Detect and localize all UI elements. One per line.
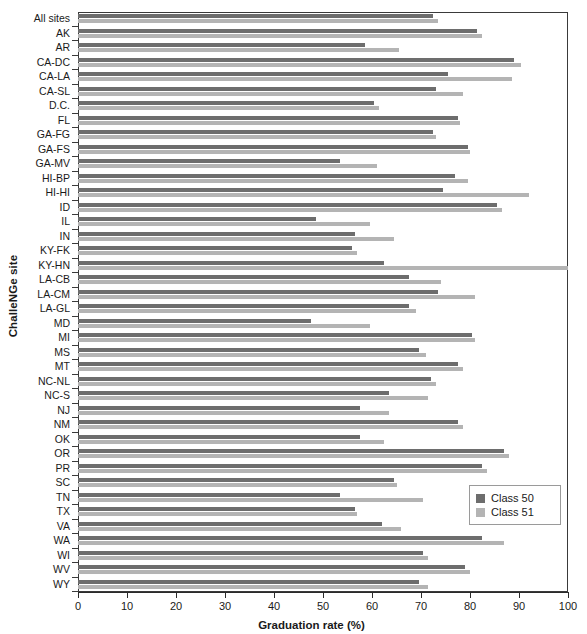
bar-group (78, 186, 568, 201)
y-tick-label: HI-HI (46, 187, 71, 198)
bar-class-50 (78, 232, 355, 236)
bar-group (78, 462, 568, 477)
bar-group (78, 273, 568, 288)
legend-label-class-51: Class 51 (491, 506, 534, 518)
bar-class-50 (78, 406, 360, 410)
x-tick-label: 60 (366, 600, 378, 612)
bar-class-50 (78, 348, 419, 352)
bar-class-51 (78, 222, 370, 226)
bar-class-51 (78, 309, 416, 313)
bar-class-51 (78, 338, 475, 342)
bar-class-51 (78, 164, 377, 168)
bar-class-50 (78, 29, 477, 33)
bar-group (78, 563, 568, 578)
bar-group (78, 244, 568, 259)
bar-class-50 (78, 246, 352, 250)
bar-class-50 (78, 261, 384, 265)
bar-class-50 (78, 435, 360, 439)
bar-class-50 (78, 159, 340, 163)
bar-group (78, 128, 568, 143)
x-tick-label: 0 (75, 600, 81, 612)
y-tick-label: CA-SL (39, 86, 70, 97)
bar-class-50 (78, 565, 465, 569)
bar-group (78, 331, 568, 346)
y-tick-label: TX (57, 506, 70, 517)
bar-group (78, 157, 568, 172)
y-tick-label: AK (56, 28, 70, 39)
bar-class-51 (78, 208, 502, 212)
y-tick-label: OR (54, 448, 70, 459)
y-tick-label: KY-HN (38, 260, 70, 271)
bar-class-50 (78, 362, 458, 366)
legend: Class 50 Class 51 (469, 485, 561, 525)
bar-class-51 (78, 266, 568, 270)
bar-class-50 (78, 217, 316, 221)
bar-class-51 (78, 527, 401, 531)
bar-class-51 (78, 34, 482, 38)
x-tick-label: 10 (121, 600, 133, 612)
legend-swatch-class-50-icon (476, 494, 485, 503)
bar-class-51 (78, 251, 357, 255)
y-tick-label: GA-FS (38, 144, 70, 155)
bar-class-50 (78, 420, 458, 424)
y-tick-label: WI (57, 550, 70, 561)
bar-class-51 (78, 367, 463, 371)
bar-group (78, 201, 568, 216)
bar-class-50 (78, 377, 431, 381)
bar-group (78, 27, 568, 42)
x-axis-title: Graduation rate (%) (0, 619, 587, 631)
x-tick-mark (470, 592, 471, 598)
bar-group (78, 302, 568, 317)
bar-class-50 (78, 174, 455, 178)
bar-class-51 (78, 498, 423, 502)
bar-class-50 (78, 14, 433, 18)
bar-class-51 (78, 280, 441, 284)
y-tick-label: MI (58, 332, 70, 343)
x-tick-label: 20 (170, 600, 182, 612)
y-tick-label: CA-DC (37, 57, 70, 68)
x-axis-title-text: Graduation rate (%) (258, 619, 365, 631)
legend-swatch-class-51-icon (476, 508, 485, 517)
x-tick-mark (568, 592, 569, 598)
bar-class-51 (78, 440, 384, 444)
bar-class-50 (78, 58, 514, 62)
y-tick-label: NC-S (44, 390, 70, 401)
y-tick-label: TN (56, 492, 70, 503)
y-tick-label: WY (53, 579, 70, 590)
bar-group (78, 215, 568, 230)
bar-class-50 (78, 43, 365, 47)
bar-group (78, 70, 568, 85)
bar-group (78, 578, 568, 593)
bar-group (78, 143, 568, 158)
bar-class-51 (78, 483, 397, 487)
bar-class-51 (78, 237, 394, 241)
bar-class-50 (78, 72, 448, 76)
y-tick-label: KY-FK (40, 245, 70, 256)
bar-class-51 (78, 469, 487, 473)
bar-class-50 (78, 464, 482, 468)
y-tick-label: NM (54, 419, 70, 430)
bar-class-51 (78, 556, 428, 560)
y-tick-label: LA-GL (40, 303, 70, 314)
bar-class-51 (78, 512, 357, 516)
bar-class-51 (78, 121, 460, 125)
bar-class-50 (78, 101, 374, 105)
bar-class-50 (78, 449, 504, 453)
bar-class-51 (78, 63, 521, 67)
bar-group (78, 346, 568, 361)
bar-class-50 (78, 391, 389, 395)
x-tick-mark (519, 592, 520, 598)
x-tick-mark (225, 592, 226, 598)
bar-group (78, 549, 568, 564)
x-tick-mark (372, 592, 373, 598)
x-tick-mark (127, 592, 128, 598)
bar-class-50 (78, 319, 311, 323)
y-tick-label: All sites (34, 13, 70, 24)
legend-item-class-50: Class 50 (476, 492, 554, 504)
bar-class-50 (78, 478, 394, 482)
bar-class-50 (78, 580, 419, 584)
y-axis-tick-labels: All sitesAKARCA-DCCA-LACA-SLD.C.FLGA-FGG… (0, 12, 78, 592)
y-tick-label: IL (61, 216, 70, 227)
legend-item-class-51: Class 51 (476, 506, 554, 518)
y-tick-label: WA (53, 535, 70, 546)
